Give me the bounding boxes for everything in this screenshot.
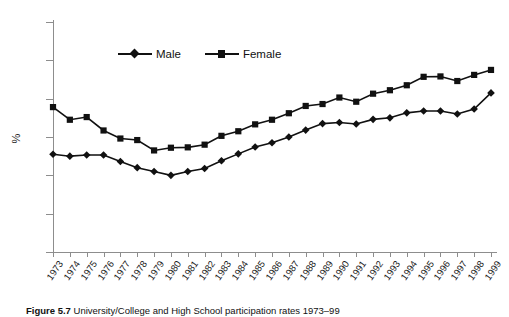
data-point xyxy=(353,99,359,105)
data-point xyxy=(286,110,292,116)
data-point xyxy=(218,157,226,165)
data-point xyxy=(420,107,428,115)
data-point xyxy=(336,119,344,127)
data-point xyxy=(252,121,258,127)
data-point xyxy=(117,135,123,141)
data-point xyxy=(49,150,57,158)
data-point xyxy=(303,103,309,109)
figure-caption: Figure 5.7 University/College and High S… xyxy=(26,305,496,316)
chart-series-layer xyxy=(0,0,509,317)
data-point xyxy=(404,82,410,88)
series-male xyxy=(49,89,495,179)
data-point xyxy=(67,117,73,123)
data-point xyxy=(202,142,208,148)
data-point xyxy=(386,114,394,122)
data-point xyxy=(370,91,376,97)
data-point xyxy=(319,120,327,128)
data-point xyxy=(117,158,125,166)
data-point xyxy=(66,152,74,160)
data-point xyxy=(150,168,158,176)
data-point xyxy=(285,133,293,141)
data-point xyxy=(471,72,477,78)
data-point xyxy=(201,165,209,173)
data-point xyxy=(336,94,342,100)
data-point xyxy=(369,116,377,124)
data-point xyxy=(50,104,56,110)
data-point xyxy=(437,73,443,79)
data-point xyxy=(168,145,174,151)
data-point xyxy=(268,139,276,147)
data-point xyxy=(167,172,175,180)
data-point xyxy=(454,110,462,118)
data-point xyxy=(133,164,141,172)
data-point xyxy=(100,151,108,159)
data-point xyxy=(235,150,243,158)
figure-container: % 0102030405060 197319741975197619771978… xyxy=(0,0,509,317)
data-point xyxy=(251,143,259,151)
data-point xyxy=(83,151,91,159)
data-point xyxy=(134,137,140,143)
data-point xyxy=(218,133,224,139)
data-point xyxy=(184,168,192,176)
data-point xyxy=(302,126,310,134)
data-point xyxy=(185,144,191,150)
data-point xyxy=(319,101,325,107)
data-point xyxy=(100,127,106,133)
data-point xyxy=(437,107,445,115)
data-point xyxy=(454,78,460,84)
data-point xyxy=(403,109,411,117)
data-point xyxy=(84,114,90,120)
data-point xyxy=(151,147,157,153)
data-point xyxy=(352,120,360,128)
caption-number: Figure 5.7 xyxy=(26,305,71,316)
data-point xyxy=(421,74,427,80)
data-point xyxy=(387,87,393,93)
data-point xyxy=(269,117,275,123)
data-point xyxy=(488,67,494,73)
data-point xyxy=(235,128,241,134)
caption-body: University/College and High School parti… xyxy=(74,305,340,316)
